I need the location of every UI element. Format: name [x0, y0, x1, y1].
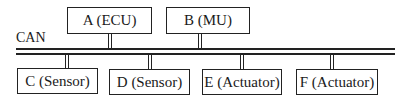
node-e-actuator: E (Actuator) [202, 69, 282, 95]
node-d-sensor: D (Sensor) [109, 69, 190, 95]
can-bus-label: CAN [16, 30, 46, 46]
node-d-connector [148, 54, 152, 70]
node-e-connector [240, 54, 244, 70]
node-a-ecu: A (ECU) [67, 7, 152, 34]
node-a-connector [108, 34, 112, 49]
node-f-connector [330, 54, 334, 70]
node-e-label: E (Actuator) [204, 74, 279, 91]
node-c-connector [65, 54, 69, 69]
node-b-connector [198, 34, 202, 49]
node-b-mu: B (MU) [166, 7, 250, 34]
can-bus-line-high [16, 48, 395, 50]
node-a-label: A (ECU) [83, 12, 137, 29]
node-b-label: B (MU) [184, 12, 232, 29]
node-f-label: F (Actuator) [300, 74, 375, 91]
node-d-label: D (Sensor) [117, 74, 182, 91]
node-c-sensor: C (Sensor) [17, 68, 98, 94]
node-c-label: C (Sensor) [25, 73, 90, 90]
can-bus-line-low [16, 53, 395, 55]
node-f-actuator: F (Actuator) [296, 69, 378, 95]
